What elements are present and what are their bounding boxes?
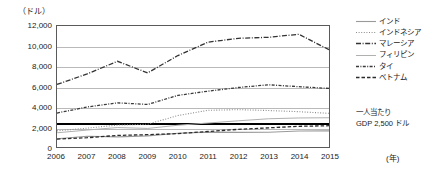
plot-area [56,25,330,148]
legend-label: ベトナム [379,74,407,82]
series-line-フィリピン [57,118,329,133]
annotation-line-1: 一人当たり [356,108,409,119]
gdp-per-capita-line-chart: （ドル） 02,0004,0006,0008,00010,00012,000 (… [0,0,446,178]
series-line-タイ [57,85,329,113]
x-tick-2007: 2007 [78,152,96,161]
legend: インドインドネシアマレーシアフィリピンタイベトナム [356,16,444,83]
x-tick-2009: 2009 [138,152,156,161]
x-axis-tick-labels: (年) 200620072008200920102011201220132014… [56,150,330,166]
x-tick-2010: 2010 [169,152,187,161]
y-tick-4000: 4,000 [32,103,52,112]
legend-swatch-icon [356,17,376,26]
legend-swatch-icon [356,39,376,48]
x-axis-unit-label: (年) [386,152,399,163]
legend-swatch-icon [356,51,376,60]
x-tick-2015: 2015 [321,152,339,161]
legend-item-フィリピン[interactable]: フィリピン [356,50,444,61]
y-axis-unit-label: （ドル） [18,5,50,16]
y-tick-10000: 10,000 [28,41,52,50]
legend-item-インドネシア[interactable]: インドネシア [356,27,444,38]
y-axis-tick-labels: 02,0004,0006,0008,00010,00012,000 [0,25,52,148]
x-tick-2014: 2014 [291,152,309,161]
legend-item-ベトナム[interactable]: ベトナム [356,72,444,83]
y-tick-12000: 12,000 [28,21,52,30]
legend-label: タイ [379,63,393,71]
legend-item-タイ[interactable]: タイ [356,61,444,72]
legend-label: フィリピン [379,51,414,59]
legend-swatch-icon [356,73,376,82]
series-line-インドネシア [57,110,329,131]
x-tick-2013: 2013 [260,152,278,161]
y-tick-8000: 8,000 [32,62,52,71]
y-tick-2000: 2,000 [32,123,52,132]
legend-item-インド[interactable]: インド [356,16,444,27]
legend-swatch-icon [356,62,376,71]
y-tick-6000: 6,000 [32,82,52,91]
series-line-マレーシア [57,34,329,84]
legend-swatch-icon [356,28,376,37]
reference-line-annotation: 一人当たり GDP 2,500 ドル [356,108,409,130]
annotation-line-2: GDP 2,500 ドル [356,119,409,130]
x-tick-2011: 2011 [200,152,217,161]
legend-label: インドネシア [379,29,421,37]
legend-label: インド [379,18,400,26]
legend-label: マレーシア [379,40,414,48]
legend-item-マレーシア[interactable]: マレーシア [356,38,444,49]
x-tick-2006: 2006 [47,152,65,161]
data-series-lines [57,26,329,147]
x-tick-2012: 2012 [230,152,248,161]
x-tick-2008: 2008 [108,152,126,161]
